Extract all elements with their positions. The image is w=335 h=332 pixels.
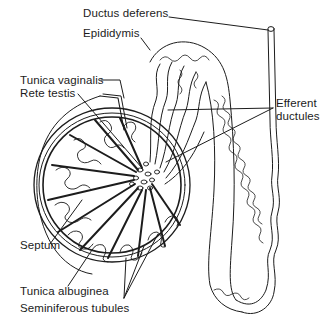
testis-illustration	[0, 0, 335, 332]
ductus-deferens	[236, 27, 279, 314]
leader-efferent-1	[168, 108, 273, 110]
label-rete-testis: Rete testis	[20, 87, 75, 100]
leader-ductus-deferens	[169, 17, 268, 30]
label-efferent-ductules-2: ductules	[276, 110, 320, 123]
leader-epididymis	[141, 38, 150, 50]
label-ductus-deferens: Ductus deferens	[83, 7, 168, 20]
testis-diagram: Ductus deferens Epididymis Tunica vagina…	[0, 0, 335, 332]
label-epididymis: Epididymis	[83, 27, 140, 40]
label-efferent-ductules-1: Efferent	[276, 97, 317, 110]
leader-lines	[50, 17, 273, 298]
label-tunica-albuginea: Tunica albuginea	[20, 285, 109, 298]
label-seminiferous-tubules: Seminiferous tubules	[20, 302, 129, 315]
label-septum: Septum	[20, 239, 60, 252]
leader-seminiferous-1	[124, 258, 126, 298]
label-tunica-vaginalis: Tunica vaginalis	[20, 74, 104, 87]
leader-seminiferous-3	[124, 234, 158, 298]
